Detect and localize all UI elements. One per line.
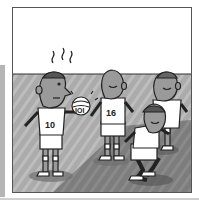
volleyball-illustration: 10 IOI 16 (13, 8, 191, 192)
wall (13, 8, 191, 74)
jersey-number-10: 10 (45, 120, 55, 130)
svg-text:IOI: IOI (75, 107, 84, 114)
bottom-line (0, 198, 199, 200)
illustration-frame: 10 IOI 16 (12, 7, 192, 193)
side-strip (0, 65, 5, 197)
jersey-number-16: 16 (106, 108, 116, 118)
